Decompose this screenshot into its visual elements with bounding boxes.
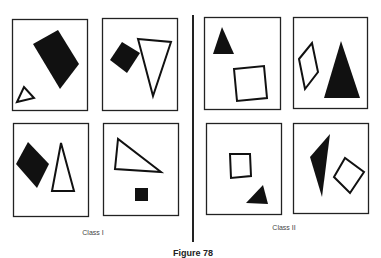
outline-triangle-shape [115, 139, 161, 172]
class-two-label: Class II [272, 224, 295, 231]
filled-triangle-shape [213, 27, 234, 54]
outline-triangle-shape [138, 39, 171, 96]
filled-triangle-shape [324, 41, 360, 98]
outline-parallelogram-shape [299, 43, 318, 89]
class-one-label: Class I [82, 229, 103, 236]
outline-square-shape [234, 66, 267, 101]
outline-triangle-shape [52, 143, 74, 191]
filled-diamond-shape [16, 142, 49, 188]
panel-class1-2 [103, 19, 178, 111]
outline-square-shape [230, 154, 251, 178]
filled-triangle-shape [246, 185, 268, 204]
outline-diamond-shape [334, 158, 364, 193]
filled-square-shape [110, 42, 140, 73]
outline-triangle-shape [17, 87, 34, 102]
filled-square-shape [135, 188, 148, 201]
filled-triangle-shape [310, 134, 330, 197]
figure-caption: Figure 78 [173, 248, 213, 258]
panel-class2-1 [205, 18, 281, 110]
panel-class2-3 [207, 124, 282, 215]
filled-rectangle-shape [33, 30, 79, 89]
panel-class2-4 [294, 124, 369, 214]
